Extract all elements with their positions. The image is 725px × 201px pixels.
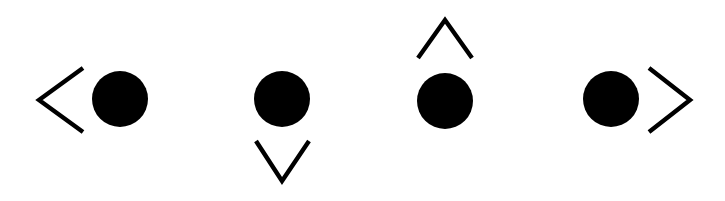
glyph-canvas xyxy=(0,0,725,201)
filled-circle-icon xyxy=(92,71,148,127)
filled-circle-icon xyxy=(583,71,639,127)
figure-root xyxy=(0,0,725,201)
filled-circle-icon xyxy=(417,73,473,129)
filled-circle-icon xyxy=(254,71,310,127)
